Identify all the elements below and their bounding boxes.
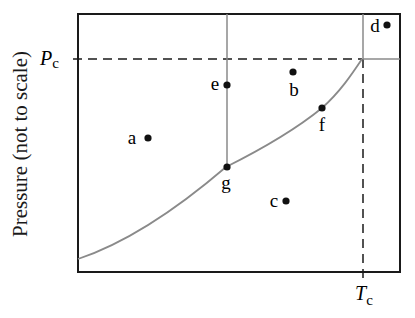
point-g: g: [221, 163, 231, 193]
tc-label: Tc: [355, 282, 373, 308]
y-axis-label: Pressure (not to scale): [8, 51, 33, 237]
svg-text:f: f: [319, 114, 326, 135]
pc-label: Pc: [39, 47, 59, 71]
point-c: c: [270, 190, 290, 211]
vapor-pressure-curve: [78, 59, 362, 259]
svg-text:b: b: [289, 79, 299, 100]
svg-text:g: g: [221, 172, 231, 193]
phase-diagram: a b c d e f g Pc Tc: [0, 0, 415, 318]
svg-text:a: a: [128, 127, 137, 148]
svg-text:c: c: [270, 190, 278, 211]
point-b: b: [289, 68, 299, 100]
svg-text:e: e: [211, 73, 219, 94]
point-d: d: [370, 15, 390, 36]
point-f: f: [318, 104, 325, 135]
plot-frame: [78, 14, 400, 272]
svg-text:d: d: [370, 15, 380, 36]
point-a: a: [128, 127, 152, 148]
